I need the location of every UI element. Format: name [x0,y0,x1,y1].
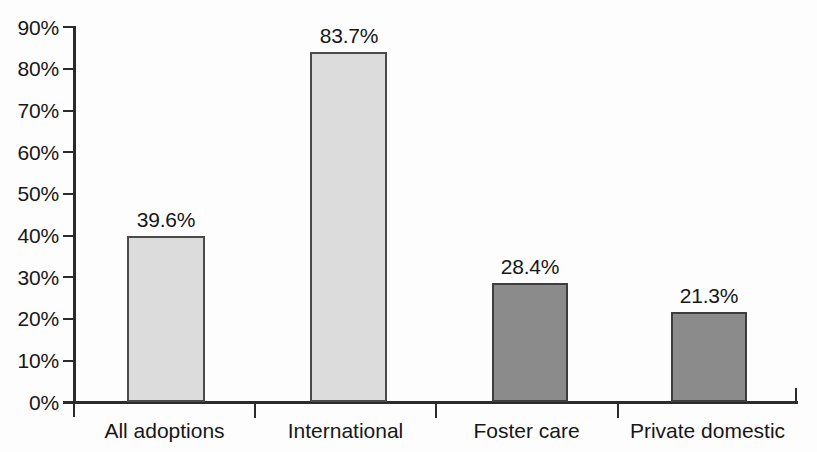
y-tick-label-60: 60% [18,142,59,163]
y-tick-label-80: 80% [18,58,59,79]
x-label-foster-care: Foster care [436,419,617,443]
y-axis-line [73,26,76,404]
x-tick-mark-left-edge [73,401,75,417]
x-tick-mark-3 [617,404,619,418]
bar-value-foster-care: 28.4% [470,256,590,277]
y-tick-label-90: 90% [18,17,59,38]
bar-chart: 90% 80% 70% 60% 50% 40% 30% 20% 10% 0% [0,0,817,452]
y-tick-label-10: 10% [18,350,59,371]
y-tick-label-30: 30% [18,267,59,288]
y-tick-label-40: 40% [18,225,59,246]
bar-international[interactable] [310,52,387,402]
y-tick-label-0: 0% [29,392,59,413]
x-tick-mark-1 [254,404,256,418]
bar-value-international: 83.7% [289,25,409,46]
y-tick-label-20: 20% [18,308,59,329]
y-tick-label-50: 50% [18,183,59,204]
bar-all-adoptions[interactable] [127,236,205,402]
bar-value-private-domestic: 21.3% [649,285,769,306]
x-label-international: International [255,419,436,443]
bar-value-all-adoptions: 39.6% [106,209,226,230]
y-tick-label-70: 70% [18,100,59,121]
bar-foster-care[interactable] [492,283,568,402]
x-tick-mark-2 [435,404,437,418]
bar-private-domestic[interactable] [671,312,747,402]
x-tick-mark-right-edge [795,388,797,402]
x-label-private-domestic: Private domestic [617,419,798,443]
x-label-all-adoptions: All adoptions [74,419,255,443]
